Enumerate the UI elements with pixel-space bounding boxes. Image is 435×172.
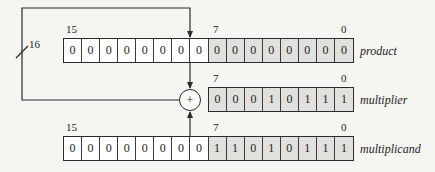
multiplicand-bit-cell: 0: [82, 137, 100, 160]
product-bit-cell: 0: [227, 39, 245, 62]
multiplicand-bit-cell: 1: [209, 137, 227, 160]
multiplicand-bit-cell: 0: [64, 137, 82, 160]
multiplier-register: 0 0 0 1 0 1 1 1: [208, 87, 354, 112]
multiplicand-bit-cell: 0: [190, 137, 208, 160]
multiplier-bit-cell: 1: [299, 88, 317, 111]
multiplicand-bit-cell: 1: [299, 137, 317, 160]
product-bit-cell: 0: [100, 39, 118, 62]
multiplicand-register: 0 0 0 0 0 0 0 0 1 1 0 1 0 1 1 1: [63, 136, 354, 161]
multiplicand-bit-cell: 1: [335, 137, 353, 160]
multiplicand-bit-0-label: 0: [341, 121, 347, 133]
product-bit-cell: 0: [172, 39, 190, 62]
product-bit-cell: 0: [136, 39, 154, 62]
product-bit-cell: 0: [317, 39, 335, 62]
multiplier-bit-cell: 1: [263, 88, 281, 111]
multiplicand-bit-cell: 1: [227, 137, 245, 160]
multiplier-register-label: multiplier: [360, 93, 407, 108]
multiplicand-bit-cell: 0: [245, 137, 263, 160]
arrow-into-product-icon: [187, 31, 193, 38]
multiplier-bit-cell: 0: [281, 88, 299, 111]
multiplicand-bit-cell: 1: [317, 137, 335, 160]
multiplier-bit-cell: 1: [317, 88, 335, 111]
product-bit-15-label: 15: [66, 23, 77, 35]
product-bit-cell: 0: [281, 39, 299, 62]
multiplier-bit-7-label: 7: [213, 72, 219, 84]
product-bit-cell: 0: [64, 39, 82, 62]
product-bit-cell: 0: [209, 39, 227, 62]
multiplier-bit-cell: 0: [227, 88, 245, 111]
arrow-into-adder-top-icon: [187, 82, 193, 89]
multiplicand-bit-15-label: 15: [66, 121, 77, 133]
arrow-into-adder-bottom-icon: [187, 111, 193, 118]
product-bit-cell: 0: [190, 39, 208, 62]
multiplicand-bit-cell: 0: [281, 137, 299, 160]
product-register: 0 0 0 0 0 0 0 0 0 0 0 0 0 0 0 0: [63, 38, 354, 63]
plus-icon: +: [187, 93, 194, 108]
product-bit-cell: 0: [335, 39, 353, 62]
product-bit-cell: 0: [299, 39, 317, 62]
multiplicand-register-label: multiplicand: [360, 142, 421, 157]
adder-icon: +: [179, 89, 201, 111]
product-bit-cell: 0: [118, 39, 136, 62]
multiplier-bit-cell: 1: [335, 88, 353, 111]
product-bit-cell: 0: [154, 39, 172, 62]
multiplicand-bit-cell: 0: [172, 137, 190, 160]
multiplicand-bit-7-label: 7: [213, 121, 219, 133]
multiplier-bit-cell: 0: [209, 88, 227, 111]
product-register-label: product: [360, 44, 397, 59]
bus-width-label: 16: [29, 38, 40, 50]
product-bit-cell: 0: [82, 39, 100, 62]
multiplicand-bit-cell: 0: [100, 137, 118, 160]
product-bit-0-label: 0: [341, 23, 347, 35]
product-bit-cell: 0: [245, 39, 263, 62]
multiplicand-bit-cell: 0: [118, 137, 136, 160]
multiplicand-bit-cell: 1: [263, 137, 281, 160]
product-bit-cell: 0: [263, 39, 281, 62]
multiplicand-bit-cell: 0: [154, 137, 172, 160]
multiplicand-bit-cell: 0: [136, 137, 154, 160]
multiplier-bit-0-label: 0: [341, 72, 347, 84]
multiplier-bit-cell: 0: [245, 88, 263, 111]
product-bit-7-label: 7: [213, 23, 219, 35]
